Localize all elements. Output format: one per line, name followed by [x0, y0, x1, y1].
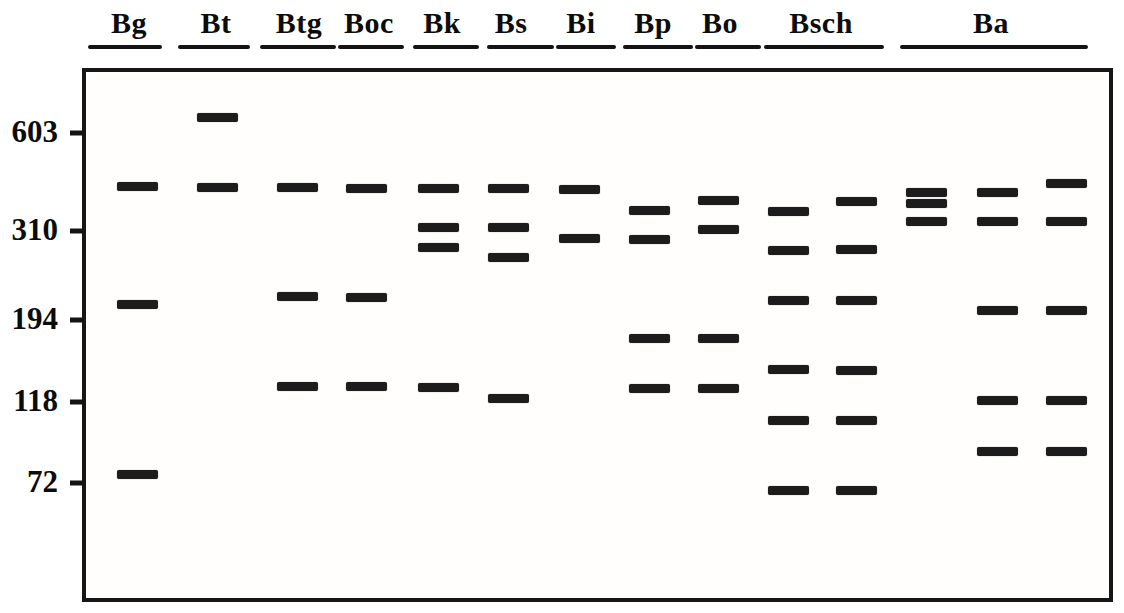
band-Bp-1-1: [629, 206, 670, 215]
marker-tick-194: [70, 318, 85, 323]
band-Btg-1-1: [277, 183, 318, 192]
band-Bp-1-3: [629, 334, 670, 343]
band-Bsch-2-5: [836, 416, 877, 425]
lane-label-Bg: Bg: [111, 6, 147, 40]
band-Ba-3-3: [1046, 306, 1087, 315]
band-Ba-1-1: [906, 188, 947, 197]
marker-label-603: 603: [0, 114, 58, 150]
band-Bsch-1-1: [768, 207, 809, 216]
band-Bsch-1-3: [768, 296, 809, 305]
band-Boc-1-2: [346, 293, 387, 302]
lane-label-Bk: Bk: [423, 6, 461, 40]
lane-underline-Boc: [338, 45, 404, 49]
marker-label-72: 72: [0, 464, 58, 500]
gel-box: [82, 68, 1113, 602]
lane-underline-Bp: [623, 45, 693, 49]
lane-underline-Btg: [260, 45, 336, 49]
band-Bg-1-3: [117, 470, 158, 479]
band-Btg-1-3: [277, 382, 318, 391]
band-Ba-3-5: [1046, 447, 1087, 456]
band-Bsch-1-4: [768, 365, 809, 374]
lane-label-Btg: Btg: [276, 6, 323, 40]
lane-label-Bs: Bs: [495, 6, 528, 40]
lane-label-Boc: Boc: [344, 6, 394, 40]
lane-label-Bp: Bp: [634, 6, 672, 40]
marker-label-310: 310: [0, 212, 58, 248]
band-Ba-1-2: [906, 199, 947, 208]
band-Bg-1-2: [117, 300, 158, 309]
band-Bt-1-1: [197, 113, 238, 122]
marker-label-194: 194: [0, 301, 58, 337]
band-Bo-1-3: [698, 334, 739, 343]
lane-label-Ba: Ba: [973, 6, 1009, 40]
band-Boc-1-1: [346, 184, 387, 193]
band-Bo-1-2: [698, 225, 739, 234]
lane-label-Bi: Bi: [566, 6, 595, 40]
lane-underline-Bk: [413, 45, 479, 49]
band-Bp-1-4: [629, 384, 670, 393]
band-Ba-3-2: [1046, 217, 1087, 226]
band-Bo-1-4: [698, 384, 739, 393]
band-Bs-1-4: [488, 394, 529, 403]
lane-underline-Bi: [556, 45, 616, 49]
band-Ba-1-3: [906, 217, 947, 226]
lane-label-Bo: Bo: [702, 6, 738, 40]
marker-tick-603: [70, 131, 85, 136]
band-Bk-1-1: [418, 184, 459, 193]
lane-label-Bt: Bt: [201, 6, 232, 40]
marker-tick-72: [70, 481, 85, 486]
marker-tick-118: [70, 400, 85, 405]
band-Bi-1-1: [559, 185, 600, 194]
band-Bsch-1-2: [768, 246, 809, 255]
band-Bsch-1-5: [768, 416, 809, 425]
band-Bs-1-2: [488, 223, 529, 232]
lane-underline-Bt: [178, 45, 250, 49]
band-Bp-1-2: [629, 235, 670, 244]
band-Bk-1-4: [418, 383, 459, 392]
band-Bsch-2-2: [836, 245, 877, 254]
band-Ba-2-2: [977, 217, 1018, 226]
gel-figure: 60331019411872BgBtBtgBocBkBsBiBpBoBschBa: [0, 0, 1124, 613]
band-Ba-2-5: [977, 447, 1018, 456]
band-Bk-1-3: [418, 243, 459, 252]
band-Boc-1-3: [346, 382, 387, 391]
lane-label-Bsch: Bsch: [789, 6, 853, 40]
band-Ba-2-1: [977, 188, 1018, 197]
band-Bsch-2-3: [836, 296, 877, 305]
band-Bo-1-1: [698, 196, 739, 205]
band-Bi-1-2: [559, 234, 600, 243]
band-Bsch-1-6: [768, 486, 809, 495]
band-Bs-1-1: [488, 184, 529, 193]
lane-underline-Ba: [900, 45, 1088, 49]
lane-underline-Bg: [88, 45, 162, 49]
band-Bsch-2-4: [836, 366, 877, 375]
band-Bs-1-3: [488, 253, 529, 262]
lane-underline-Bo: [695, 45, 761, 49]
band-Ba-2-3: [977, 306, 1018, 315]
band-Bt-1-2: [197, 183, 238, 192]
band-Ba-3-1: [1046, 179, 1087, 188]
band-Bsch-2-6: [836, 486, 877, 495]
band-Btg-1-2: [277, 292, 318, 301]
band-Bg-1-1: [117, 182, 158, 191]
marker-label-118: 118: [0, 383, 58, 419]
lane-underline-Bs: [487, 45, 554, 49]
marker-tick-310: [70, 229, 85, 234]
lane-underline-Bsch: [764, 45, 884, 49]
band-Bk-1-2: [418, 223, 459, 232]
band-Bsch-2-1: [836, 197, 877, 206]
band-Ba-2-4: [977, 396, 1018, 405]
band-Ba-3-4: [1046, 396, 1087, 405]
